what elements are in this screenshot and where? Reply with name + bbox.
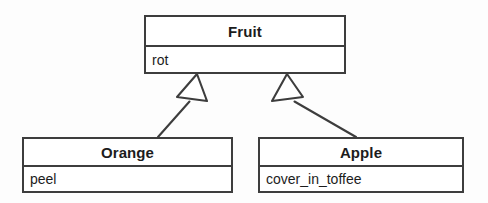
hollow-triangle-arrowhead-apple	[272, 74, 303, 101]
generalization-apple-to-fruit	[272, 74, 356, 137]
class-name-fruit: Fruit	[228, 23, 262, 40]
hollow-triangle-arrowhead-orange	[177, 74, 207, 101]
class-name-row-orange: Orange	[24, 139, 231, 167]
class-attributes-row-apple: cover_in_toffee	[260, 167, 462, 191]
class-attributes-row-orange: peel	[24, 167, 231, 191]
class-name-row-fruit: Fruit	[146, 17, 344, 47]
uml-class-diagram: Fruit rot Orange peel Apple cover_in_tof…	[0, 0, 488, 203]
class-name-apple: Apple	[340, 144, 382, 161]
class-box-fruit[interactable]: Fruit rot	[144, 15, 346, 74]
generalization-orange-to-fruit	[158, 74, 207, 137]
generalization-line-orange	[158, 102, 190, 138]
class-attribute-rot: rot	[146, 52, 168, 68]
class-name-orange: Orange	[101, 144, 154, 161]
class-box-apple[interactable]: Apple cover_in_toffee	[258, 137, 464, 193]
class-box-orange[interactable]: Orange peel	[22, 137, 233, 193]
class-attribute-cover-in-toffee: cover_in_toffee	[260, 171, 361, 187]
class-name-row-apple: Apple	[260, 139, 462, 167]
class-attributes-row-fruit: rot	[146, 47, 344, 72]
class-attribute-peel: peel	[24, 171, 56, 187]
generalization-line-apple	[295, 102, 357, 138]
